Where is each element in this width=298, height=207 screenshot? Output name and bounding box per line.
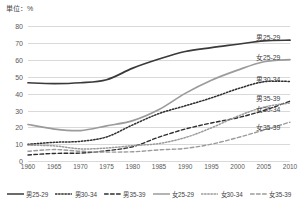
legend-label: 男30-34: [75, 190, 97, 199]
legend-item[interactable]: 女25-29: [153, 190, 195, 199]
legend-item[interactable]: 女30-34: [201, 190, 243, 199]
legend-label: 男25-29: [26, 190, 48, 199]
legend-label: 女25-29: [172, 190, 194, 199]
y-axis-tick-label: 40: [15, 90, 23, 97]
x-axis-tick-label: 1980: [126, 163, 140, 170]
x-axis-tick-label: 1990: [178, 163, 192, 170]
legend-swatch: [201, 190, 218, 198]
y-axis-tick-label: 10: [15, 141, 23, 148]
legend-label: 男35-39: [123, 190, 145, 199]
y-axis: 01020304050607080: [0, 18, 26, 161]
series-line: [28, 81, 290, 144]
plot-area: 男25-29女25-29男30-34男35-39女30-34女35-39: [28, 18, 290, 161]
line-chart: 単位：% 01020304050607080 男25-29女25-29男30-3…: [0, 0, 298, 207]
unit-label: 単位：%: [6, 3, 33, 13]
x-axis-tick-label: 1975: [99, 163, 113, 170]
x-axis-tick-label: 1970: [73, 163, 87, 170]
series-layer: [28, 18, 290, 161]
legend-swatch: [55, 190, 72, 198]
legend-swatch: [104, 190, 121, 198]
series-line: [28, 60, 290, 131]
gridline: [28, 161, 290, 162]
chart-legend: 男25-29男30-34男35-39女25-29女30-34女35-39: [0, 184, 298, 204]
legend-swatch: [153, 190, 170, 198]
x-axis-tick-label: 1995: [204, 163, 218, 170]
legend-item[interactable]: 男30-34: [55, 190, 97, 199]
x-axis-tick-label: 1960: [21, 163, 35, 170]
x-axis-tick-label: 1985: [152, 163, 166, 170]
series-inline-label: 女30-34: [256, 104, 280, 114]
series-inline-label: 女35-39: [256, 122, 280, 132]
x-axis: 1960196519701975198019851990199520002005…: [28, 163, 290, 175]
series-inline-label: 男25-29: [256, 32, 280, 42]
legend-swatch: [7, 190, 24, 198]
legend-item[interactable]: 男25-29: [7, 190, 49, 199]
legend-swatch: [250, 190, 267, 198]
series-line: [28, 40, 290, 83]
legend-label: 女35-39: [269, 190, 291, 199]
x-axis-tick-label: 2005: [257, 163, 271, 170]
y-axis-tick-label: 80: [15, 23, 23, 30]
x-axis-tick-label: 2010: [283, 163, 297, 170]
x-axis-tick-label: 1965: [47, 163, 61, 170]
y-axis-tick-label: 50: [15, 73, 23, 80]
y-axis-tick-label: 30: [15, 107, 23, 114]
series-inline-label: 女25-29: [256, 52, 280, 62]
series-inline-label: 男35-39: [256, 93, 280, 103]
x-axis-tick-label: 2000: [230, 163, 244, 170]
y-axis-tick-label: 70: [15, 40, 23, 47]
y-axis-tick-label: 60: [15, 57, 23, 64]
legend-item[interactable]: 女35-39: [250, 190, 292, 199]
y-axis-tick-label: 20: [15, 124, 23, 131]
legend-label: 女30-34: [221, 190, 243, 199]
series-inline-label: 男30-34: [256, 74, 280, 84]
legend-item[interactable]: 男35-39: [104, 190, 146, 199]
